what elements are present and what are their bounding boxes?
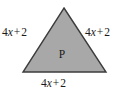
side-label-bottom: 4x + 2 [41, 78, 66, 90]
side-label-bottom-operator: + [53, 77, 60, 89]
side-label-right-variable: x [91, 26, 96, 38]
side-label-right-constant: 2 [104, 26, 110, 38]
side-label-right-operator: + [97, 26, 104, 38]
side-label-left-operator: + [14, 26, 21, 38]
shape-interior-label: P [0, 49, 124, 61]
side-label-bottom-variable: x [47, 77, 52, 89]
triangle-polygon [23, 8, 106, 72]
side-label-bottom-constant: 2 [60, 77, 66, 89]
side-label-left-variable: x [8, 26, 13, 38]
side-label-right: 4x + 2 [85, 27, 110, 39]
geometry-figure: 4x + 2 4x + 2 4x + 2 P [0, 0, 124, 95]
side-label-left: 4x + 2 [2, 27, 27, 39]
side-label-left-constant: 2 [21, 26, 27, 38]
